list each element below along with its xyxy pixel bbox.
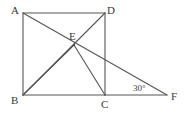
vertex-label-e: E xyxy=(69,31,76,42)
geometry-canvas xyxy=(0,0,189,118)
vertex-label-a: A xyxy=(11,5,19,16)
segment-E-to-B xyxy=(23,45,74,95)
geometry-figure: A D B C E F 30° xyxy=(0,0,189,118)
segment-E-to-C xyxy=(74,45,105,95)
vertex-label-b: B xyxy=(11,95,18,106)
angle-label-30-degrees: 30° xyxy=(133,84,146,93)
vertex-label-c: C xyxy=(101,99,108,110)
vertex-label-f: F xyxy=(171,91,177,102)
vertex-label-d: D xyxy=(107,5,115,16)
point-E-dot xyxy=(73,44,75,46)
